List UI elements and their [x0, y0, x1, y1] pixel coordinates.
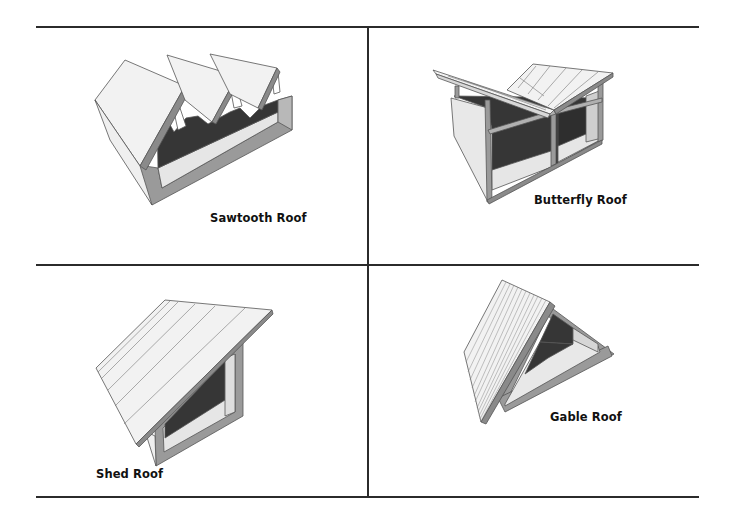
label-sawtooth-roof: Sawtooth Roof: [210, 211, 307, 225]
label-gable-roof: Gable Roof: [550, 410, 622, 424]
panel-shed-roof: Shed Roof: [0, 266, 367, 496]
sawtooth-roof-illustration: [0, 0, 367, 264]
label-butterfly-roof: Butterfly Roof: [534, 193, 627, 207]
gable-roof-illustration: [368, 266, 737, 496]
panel-gable-roof: Gable Roof: [368, 266, 737, 496]
butterfly-roof-illustration: [368, 0, 737, 264]
label-shed-roof: Shed Roof: [96, 467, 163, 481]
panel-butterfly-roof: Butterfly Roof: [368, 0, 737, 264]
shed-roof-illustration: [0, 266, 367, 496]
panel-sawtooth-roof: Sawtooth Roof: [0, 0, 367, 264]
